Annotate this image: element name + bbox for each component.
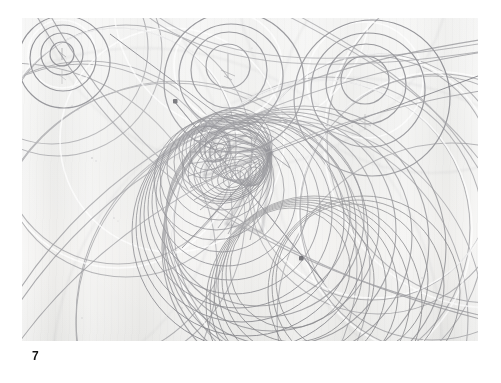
drawing-plate xyxy=(22,18,478,341)
lower-dense-arc-group xyxy=(206,196,460,341)
pin-dot-upper xyxy=(173,99,178,104)
cluster-upper-right xyxy=(294,20,450,176)
figure-page: 7 xyxy=(0,0,501,383)
pencil-artwork xyxy=(22,18,478,341)
pin-dot-lower xyxy=(299,256,304,261)
compass-pin-mark-um xyxy=(221,54,235,80)
figure-caption: 7 xyxy=(32,349,39,363)
